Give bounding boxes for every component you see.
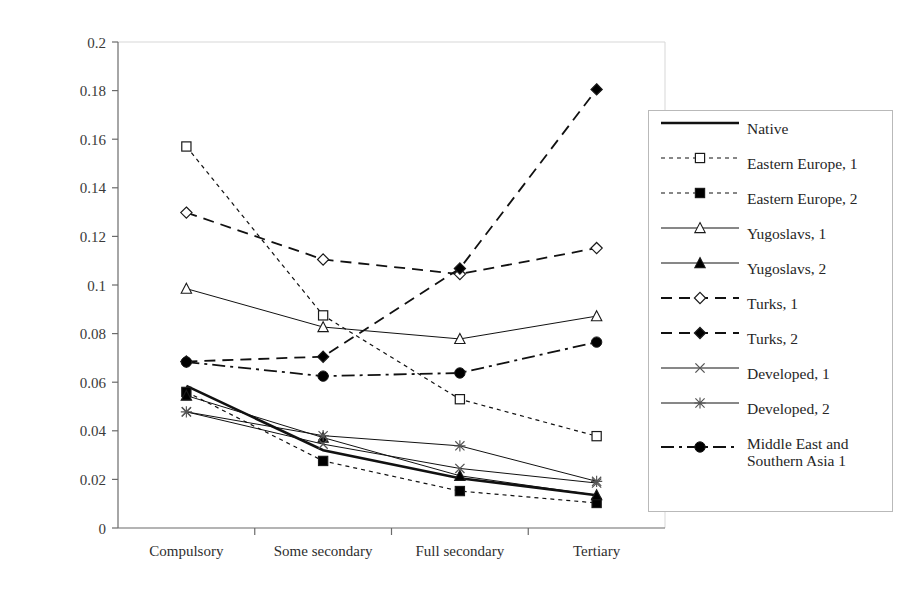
data-point-marker	[318, 322, 328, 332]
legend-item-label: Eastern Europe, 1	[743, 155, 858, 172]
chart-series	[181, 406, 602, 487]
y-axis-tick-label: 0.18	[80, 83, 106, 99]
data-point-marker	[591, 242, 602, 253]
legend-item-label: Eastern Europe, 2	[743, 190, 858, 207]
series-line	[186, 396, 596, 496]
series-line	[186, 89, 596, 361]
y-axis-tick-label: 0.16	[80, 132, 107, 148]
legend-item[interactable]: Yugoslavs, 1	[657, 216, 892, 251]
data-point-marker	[454, 440, 465, 451]
legend-key-swatch	[657, 356, 743, 391]
legend-item-label: Yugoslavs, 2	[743, 260, 826, 277]
x-axis-category-label: Tertiary	[573, 543, 621, 559]
legend-key-swatch	[657, 251, 743, 286]
data-point-marker	[694, 292, 705, 303]
legend-key-swatch	[657, 435, 743, 470]
data-point-marker	[455, 486, 464, 495]
data-point-marker	[181, 406, 192, 417]
chart-legend: NativeEastern Europe, 1Eastern Europe, 2…	[648, 110, 893, 512]
data-point-marker	[695, 441, 705, 451]
legend-item[interactable]: Developed, 2	[657, 391, 892, 426]
legend-item-label: Turks, 2	[743, 330, 798, 347]
data-point-marker	[695, 153, 704, 162]
data-point-marker	[319, 456, 328, 465]
chart-series	[181, 84, 602, 367]
data-point-marker	[182, 142, 191, 151]
chart-container: 00.020.040.060.080.10.120.140.160.180.2C…	[0, 0, 898, 591]
chart-series	[181, 390, 602, 500]
legend-item-label: Developed, 2	[743, 400, 830, 417]
legend-item-label: Turks, 1	[743, 295, 798, 312]
data-point-marker	[318, 254, 329, 265]
data-point-marker	[591, 311, 601, 321]
data-point-marker	[591, 337, 601, 347]
y-axis-tick-label: 0.2	[87, 35, 106, 51]
legend-key-swatch	[657, 181, 743, 216]
legend-key-swatch	[657, 146, 743, 181]
x-axis-category-label: Some secondary	[274, 543, 373, 559]
y-axis-tick-label: 0.04	[80, 423, 107, 439]
legend-key-swatch	[657, 321, 743, 356]
data-point-marker	[318, 351, 329, 362]
legend-item[interactable]: Yugoslavs, 2	[657, 251, 892, 286]
legend-key-swatch	[657, 216, 743, 251]
x-axis-category-label: Compulsory	[149, 543, 224, 559]
legend-item[interactable]: Turks, 2	[657, 321, 892, 356]
y-axis-tick-label: 0.1	[87, 278, 106, 294]
legend-item[interactable]: Turks, 1	[657, 286, 892, 321]
series-line	[186, 289, 596, 339]
data-point-marker	[455, 368, 465, 378]
y-axis-tick-label: 0.14	[80, 180, 107, 196]
data-point-marker	[694, 327, 705, 338]
legend-item[interactable]: Developed, 1	[657, 356, 892, 391]
legend-item[interactable]: Eastern Europe, 1	[657, 146, 892, 181]
legend-key-swatch	[657, 391, 743, 426]
legend-item[interactable]: Native	[657, 111, 892, 146]
y-axis-tick-label: 0.06	[80, 375, 107, 391]
data-point-marker	[591, 84, 602, 95]
data-point-marker	[181, 283, 191, 293]
data-point-marker	[181, 357, 191, 367]
y-axis-tick-label: 0.12	[80, 229, 106, 245]
data-point-marker	[319, 311, 328, 320]
legend-item[interactable]: Eastern Europe, 2	[657, 181, 892, 216]
chart-series	[182, 387, 601, 507]
legend-item-label: Native	[743, 120, 788, 137]
data-point-marker	[318, 371, 328, 381]
data-point-marker	[695, 188, 704, 197]
legend-item[interactable]: Middle East and Southern Asia 1	[657, 426, 892, 478]
data-point-marker	[318, 430, 329, 441]
series-line	[186, 146, 596, 436]
data-point-marker	[592, 432, 601, 441]
legend-key-swatch	[657, 286, 743, 321]
y-axis-tick-label: 0.02	[80, 472, 106, 488]
legend-key-swatch	[657, 111, 743, 146]
series-line	[186, 412, 596, 481]
legend-item-label: Middle East and Southern Asia 1	[743, 435, 849, 470]
x-axis-category-label: Full secondary	[416, 543, 505, 559]
legend-item-label: Yugoslavs, 1	[743, 225, 826, 242]
chart-series	[182, 407, 601, 487]
data-point-marker	[591, 476, 602, 487]
data-point-marker	[455, 395, 464, 404]
data-point-marker	[694, 397, 705, 408]
y-axis-tick-label: 0	[99, 521, 107, 537]
chart-series	[182, 142, 601, 441]
data-point-marker	[181, 207, 192, 218]
y-axis-tick-label: 0.08	[80, 326, 106, 342]
legend-item-label: Developed, 1	[743, 365, 830, 382]
